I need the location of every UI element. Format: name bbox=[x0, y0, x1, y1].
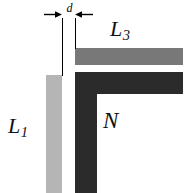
label-l3-subscript: 3 bbox=[122, 27, 130, 43]
label-l1-subscript: 1 bbox=[20, 124, 28, 140]
label-l1-base: L bbox=[8, 113, 20, 138]
l3-horizontal-bar bbox=[75, 48, 183, 65]
dimension-leader-line-right bbox=[75, 18, 76, 49]
label-n: N bbox=[103, 108, 118, 134]
l1-vertical-bar bbox=[46, 75, 62, 193]
label-n-base: N bbox=[103, 108, 118, 133]
label-l3: L3 bbox=[110, 16, 130, 44]
label-l3-base: L bbox=[110, 16, 122, 41]
dimension-arrow-right-icon bbox=[74, 10, 93, 19]
n-region-vertical-leg bbox=[75, 72, 97, 193]
label-l1: L1 bbox=[8, 113, 28, 141]
dimension-leader-line-left bbox=[62, 18, 63, 76]
dimension-arrow-left-icon bbox=[44, 10, 63, 19]
dimension-symbol-label: d bbox=[63, 2, 76, 15]
technical-figure: d L1 L3 N bbox=[0, 0, 195, 193]
